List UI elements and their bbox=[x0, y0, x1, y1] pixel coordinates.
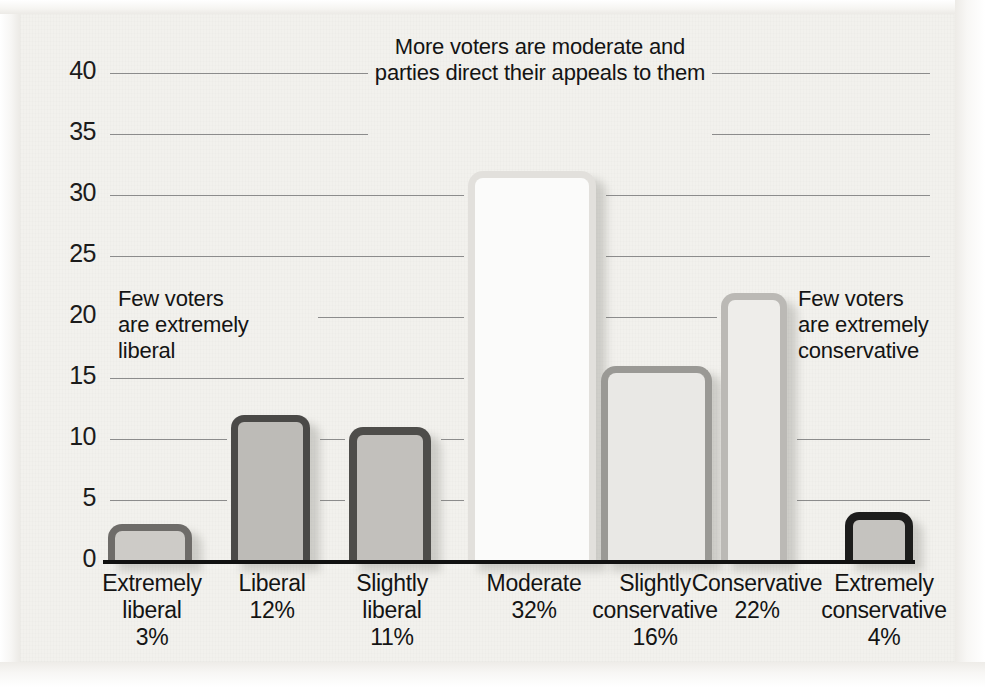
category-label-extremely-conservative: Extremelyconservative4% bbox=[792, 570, 977, 651]
gridline-35 bbox=[110, 134, 368, 135]
y-tick-0: 0 bbox=[36, 544, 96, 573]
category-label-slightly-liberal-line-2: liberal bbox=[317, 597, 467, 624]
gridline-25 bbox=[110, 256, 464, 257]
y-tick-5: 5 bbox=[36, 483, 96, 512]
annotation-left: Few voters are extremely liberal bbox=[118, 286, 308, 364]
gridline-5 bbox=[797, 500, 930, 501]
annotation-right: Few voters are extremely conservative bbox=[798, 286, 985, 364]
bar-conservative[interactable] bbox=[721, 293, 787, 563]
y-tick-35: 35 bbox=[36, 117, 96, 146]
gridline-10 bbox=[320, 439, 345, 440]
annotation-right-line-1: Few voters bbox=[798, 286, 985, 312]
x-axis-line bbox=[103, 560, 915, 564]
bar-slightly-liberal[interactable] bbox=[349, 427, 431, 563]
annotation-left-line-2: are extremely bbox=[118, 312, 308, 338]
gridline-10 bbox=[797, 439, 930, 440]
category-label-slightly-liberal-line-3: 11% bbox=[317, 624, 467, 651]
gridline-20 bbox=[318, 317, 464, 318]
annotation-right-line-3: conservative bbox=[798, 338, 985, 364]
gridline-35 bbox=[712, 134, 930, 135]
gridline-5 bbox=[320, 500, 345, 501]
chart-title-line-1: More voters are moderate and bbox=[370, 34, 710, 60]
annotation-right-line-2: are extremely bbox=[798, 312, 985, 338]
y-tick-20: 20 bbox=[36, 300, 96, 329]
gridline-5 bbox=[110, 500, 227, 501]
gridline-15 bbox=[110, 378, 464, 379]
bar-extremely-liberal[interactable] bbox=[108, 524, 192, 563]
category-label-slightly-liberal-line-1: Slightly bbox=[317, 570, 467, 597]
gridline-10 bbox=[441, 439, 464, 440]
chart-title-line-2: parties direct their appeals to them bbox=[370, 60, 710, 86]
category-label-extremely-conservative-line-3: 4% bbox=[792, 624, 977, 651]
y-tick-25: 25 bbox=[36, 239, 96, 268]
gridline-10 bbox=[110, 439, 227, 440]
gridline-30 bbox=[606, 195, 930, 196]
gridline-25 bbox=[606, 256, 930, 257]
annotation-left-line-1: Few voters bbox=[118, 286, 308, 312]
chart-title: More voters are moderate and parties dir… bbox=[370, 34, 710, 86]
gridline-20 bbox=[606, 317, 717, 318]
y-tick-40: 40 bbox=[36, 56, 96, 85]
annotation-left-line-3: liberal bbox=[118, 338, 308, 364]
category-label-extremely-liberal-line-3: 3% bbox=[77, 624, 227, 651]
gridline-40 bbox=[110, 73, 368, 74]
gridline-5 bbox=[441, 500, 464, 501]
bar-moderate[interactable] bbox=[468, 171, 596, 563]
bar-slightly-conservative[interactable] bbox=[601, 366, 712, 563]
category-label-extremely-conservative-line-1: Extremely bbox=[792, 570, 977, 597]
bar-chart: More voters are moderate and parties dir… bbox=[0, 0, 985, 687]
y-tick-15: 15 bbox=[36, 361, 96, 390]
category-label-slightly-conservative-line-3: 16% bbox=[568, 624, 743, 651]
gridline-30 bbox=[110, 195, 464, 196]
y-tick-30: 30 bbox=[36, 178, 96, 207]
category-label-extremely-conservative-line-2: conservative bbox=[792, 597, 977, 624]
y-tick-10: 10 bbox=[36, 422, 96, 451]
category-label-slightly-liberal: Slightlyliberal11% bbox=[317, 570, 467, 651]
bar-liberal[interactable] bbox=[231, 415, 310, 563]
gridline-40 bbox=[712, 73, 930, 74]
bar-extremely-conservative[interactable] bbox=[845, 512, 913, 563]
